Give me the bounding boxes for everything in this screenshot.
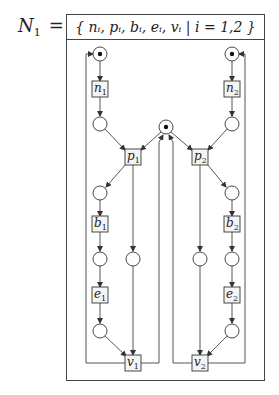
place-r2 xyxy=(193,252,207,266)
arc-mutex-1 xyxy=(141,135,163,363)
arc xyxy=(171,132,192,150)
token-icon xyxy=(98,52,102,56)
place-q1b xyxy=(93,186,107,200)
arcs xyxy=(86,54,245,363)
transition-n1: n1 xyxy=(92,81,108,97)
arc xyxy=(208,129,227,150)
arc xyxy=(105,129,125,150)
place-q2b xyxy=(225,186,239,200)
place-r1 xyxy=(126,252,140,266)
arc-return-2 xyxy=(208,54,245,363)
transition-p1: p1 xyxy=(125,149,141,165)
token-icon xyxy=(164,125,168,129)
arc-mutex-2 xyxy=(169,135,192,363)
transition-p2: p2 xyxy=(192,149,208,165)
arc xyxy=(207,164,226,187)
place-q2c xyxy=(225,252,239,266)
transition-v1: v1 xyxy=(125,355,141,371)
petri-net-diagram: n1n2p1p2b1b2e1e2v1v2 xyxy=(0,0,279,395)
transition-e1: e1 xyxy=(92,287,108,303)
arc xyxy=(207,336,227,356)
token-icon xyxy=(230,52,234,56)
transition-e2: e2 xyxy=(224,287,240,303)
places xyxy=(93,47,239,338)
arc-return-1 xyxy=(86,54,125,363)
place-q2a xyxy=(225,117,239,131)
arc xyxy=(141,132,161,150)
arc xyxy=(105,336,126,356)
place-q1d xyxy=(93,324,107,338)
transition-n2: n2 xyxy=(224,81,240,97)
arc xyxy=(106,164,126,187)
transition-b2: b2 xyxy=(224,216,240,232)
place-q2d xyxy=(225,324,239,338)
transition-b1: b1 xyxy=(92,216,108,232)
place-q1c xyxy=(93,252,107,266)
place-q1a xyxy=(93,117,107,131)
transition-v2: v2 xyxy=(192,355,208,371)
